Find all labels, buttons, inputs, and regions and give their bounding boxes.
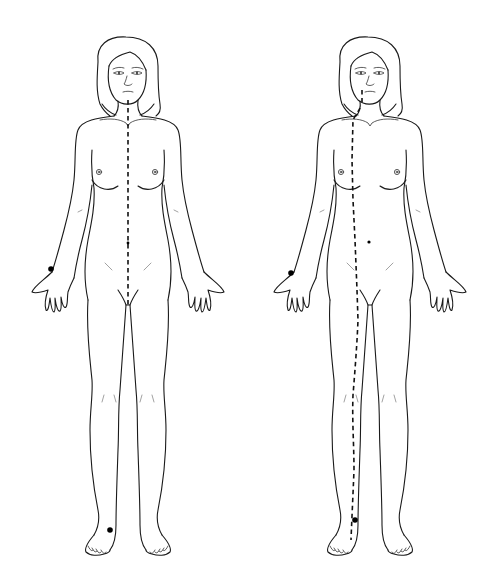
wrist-point-right — [288, 270, 294, 276]
ankle-point-right — [352, 517, 358, 523]
diagram-svg — [0, 0, 498, 582]
wrist-point-left — [48, 266, 54, 272]
navel-point-right — [367, 240, 370, 243]
ankle-point-left — [107, 527, 113, 533]
figure-left — [32, 37, 224, 555]
anatomy-diagram: Figure 1 - female front view with midlin… — [0, 0, 498, 582]
meridian-lateral — [351, 90, 362, 540]
figure-right — [274, 37, 466, 555]
